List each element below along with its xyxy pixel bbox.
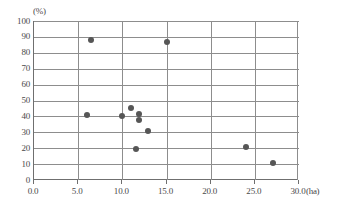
- data-point: [133, 146, 139, 152]
- y-axis-tick-labels: 0102030405060708090100: [0, 0, 30, 211]
- plot-area: [33, 21, 298, 180]
- data-point: [84, 112, 90, 118]
- x-axis-tick-mark: [166, 180, 167, 184]
- x-axis-tick-mark: [77, 180, 78, 184]
- gridline-vertical: [211, 21, 212, 180]
- y-axis-tick-label: 20: [2, 144, 30, 153]
- x-axis-tick-mark: [121, 180, 122, 184]
- x-axis-tick-mark: [298, 180, 299, 184]
- y-axis-tick-label: 0: [2, 176, 30, 185]
- data-point: [243, 144, 249, 150]
- x-axis-tick-label: 15.0: [146, 187, 186, 196]
- y-axis-tick-label: 60: [2, 80, 30, 89]
- gridline-vertical: [255, 21, 256, 180]
- x-axis-tick-label: 25.0: [234, 187, 274, 196]
- data-point: [88, 37, 94, 43]
- x-axis-tick-label: 0.0: [13, 187, 53, 196]
- data-point: [145, 128, 151, 134]
- x-axis-tick-mark: [254, 180, 255, 184]
- y-axis-unit-label: (%): [33, 7, 46, 16]
- x-axis-tick-label: 5.0: [57, 187, 97, 196]
- y-axis-tick-label: 30: [2, 128, 30, 137]
- data-point: [128, 105, 134, 111]
- scatter-chart: (%) 0102030405060708090100 (ha) 0.05.010…: [0, 0, 344, 211]
- y-axis-tick-label: 50: [2, 96, 30, 105]
- y-axis-tick-label: 70: [2, 64, 30, 73]
- data-point: [119, 113, 125, 119]
- x-axis-tick-mark: [210, 180, 211, 184]
- y-axis-tick-label: 90: [2, 32, 30, 41]
- y-axis-tick-label: 40: [2, 112, 30, 121]
- x-axis-tick-mark: [33, 180, 34, 184]
- data-point: [136, 117, 142, 123]
- data-point: [270, 160, 276, 166]
- gridline-vertical: [122, 21, 123, 180]
- gridline-vertical: [167, 21, 168, 180]
- gridline-vertical: [78, 21, 79, 180]
- y-axis-tick-label: 100: [2, 17, 30, 26]
- x-axis-tick-label: 20.0: [190, 187, 230, 196]
- x-axis-tick-label: 10.0: [101, 187, 141, 196]
- x-axis-tick-label: 30.0: [278, 187, 318, 196]
- data-point: [164, 39, 170, 45]
- y-axis-tick-label: 10: [2, 160, 30, 169]
- y-axis-tick-label: 80: [2, 48, 30, 57]
